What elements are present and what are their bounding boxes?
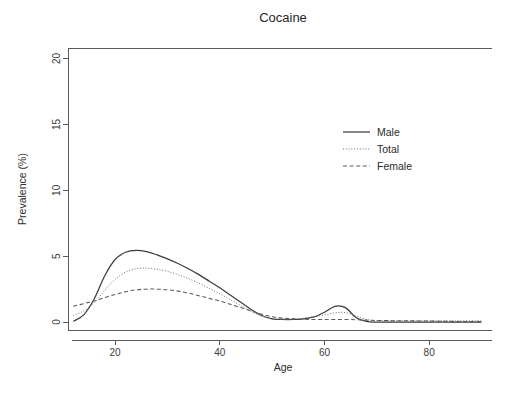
y-tick-label-15: 15 (52, 118, 63, 130)
legend-label-male: Male (377, 126, 400, 138)
x-tick-label-60: 60 (319, 347, 331, 358)
x-axis-title: Age (274, 361, 293, 373)
x-tick-label-80: 80 (424, 347, 436, 358)
series-line-male (73, 250, 481, 322)
chart-title: Cocaine (259, 10, 307, 25)
x-tick-label-40: 40 (214, 347, 226, 358)
y-tick-label-5: 5 (52, 253, 63, 259)
x-axis: 20406080 (72, 340, 492, 358)
y-tick-label-10: 10 (52, 184, 63, 196)
x-tick-label-20: 20 (110, 347, 122, 358)
legend-label-total: Total (377, 143, 399, 155)
y-axis: 05101520 (52, 53, 69, 325)
y-tick-label-0: 0 (52, 319, 63, 325)
chart-legend: MaleTotalFemale (343, 126, 412, 172)
series-line-female (73, 289, 481, 321)
y-tick-label-20: 20 (52, 53, 63, 65)
chart-container: Cocaine 05101520 20406080 Age Prevalence… (0, 0, 519, 396)
legend-label-female: Female (377, 160, 412, 172)
cocaine-prevalence-line-chart: Cocaine 05101520 20406080 Age Prevalence… (0, 0, 519, 396)
y-axis-title: Prevalence (%) (16, 153, 28, 225)
plot-frame (68, 48, 492, 330)
data-series-group (73, 250, 481, 322)
series-line-total (73, 268, 481, 321)
